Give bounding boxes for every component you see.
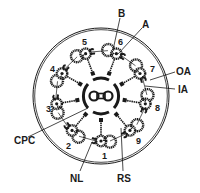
label-b: B (118, 8, 125, 19)
label-a: A (142, 19, 149, 30)
doublet-number-1: 1 (102, 151, 107, 161)
label-oa: OA (176, 66, 191, 77)
doublet-1 (79, 118, 116, 148)
label-cpc: CPC (14, 135, 35, 146)
doublet-number-5: 5 (82, 37, 87, 47)
doublet-number-7: 7 (150, 64, 155, 74)
doublet-3 (51, 81, 79, 118)
doublet-number-2: 2 (66, 141, 71, 151)
label-ia: IA (178, 84, 188, 95)
doublet-number-4: 4 (50, 64, 55, 74)
doublet-number-3: 3 (46, 104, 51, 114)
doublet-6 (102, 44, 135, 76)
outer-doublets (51, 44, 154, 148)
doublet-number-6: 6 (118, 37, 123, 47)
doublet-number-9: 9 (136, 136, 141, 146)
axoneme-diagram: B A OA IA CPC NL RS 1 2 3 4 5 6 7 8 9 (0, 0, 200, 193)
central-pair-complex (83, 78, 118, 114)
doublet-7 (119, 59, 147, 95)
label-nl: NL (70, 173, 83, 184)
label-rs: RS (117, 173, 131, 184)
doublet-number-8: 8 (155, 103, 160, 113)
